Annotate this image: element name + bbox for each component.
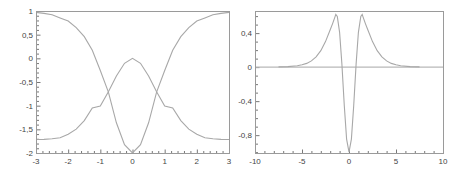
y-tick-label: 0 [248, 63, 253, 72]
x-tick-label: -5 [298, 157, 306, 166]
right-plot-labels: -10-505100,40-0,4-0,8 [238, 29, 448, 166]
x-tick-label: 2 [195, 157, 200, 166]
x-tick-label: -1 [97, 157, 105, 166]
y-tick-label: -1 [26, 102, 34, 111]
right-plot-ticks [256, 17, 444, 154]
curve-a-line [36, 12, 229, 153]
y-tick-label: -0,4 [238, 97, 252, 106]
x-tick-label: 10 [439, 157, 448, 166]
x-tick-label: 3 [227, 157, 232, 166]
left-plot-ticks [37, 12, 230, 154]
y-tick-label: -0,8 [238, 131, 252, 140]
x-tick-label: 0 [347, 157, 352, 166]
right-plot-frame [256, 12, 444, 154]
left-plot-labels: -3-2-1012310,50-0,5-1-1,5-2 [19, 7, 232, 166]
y-tick-label: -0,5 [19, 78, 33, 87]
y-tick-label: -1,5 [19, 125, 33, 134]
x-tick-label: -10 [249, 157, 261, 166]
y-tick-label: 0,5 [22, 31, 34, 40]
x-tick-label: -3 [32, 157, 40, 166]
y-tick-label: 0,4 [241, 29, 253, 38]
x-tick-label: 1 [162, 157, 167, 166]
right-plot-curves [279, 14, 420, 152]
y-tick-label: -2 [26, 149, 34, 158]
curve-c-line [279, 14, 420, 152]
y-tick-label: 1 [29, 7, 34, 16]
left-plot-curves [36, 12, 229, 153]
curve-b-line [36, 58, 229, 139]
left-plot-frame [37, 12, 230, 154]
x-tick-label: 0 [130, 157, 135, 166]
x-tick-label: 5 [394, 157, 399, 166]
x-tick-label: -2 [65, 157, 73, 166]
left-line-chart: -3-2-1012310,50-0,5-1-1,5-2 [0, 0, 232, 170]
y-tick-label: 0 [29, 54, 34, 63]
